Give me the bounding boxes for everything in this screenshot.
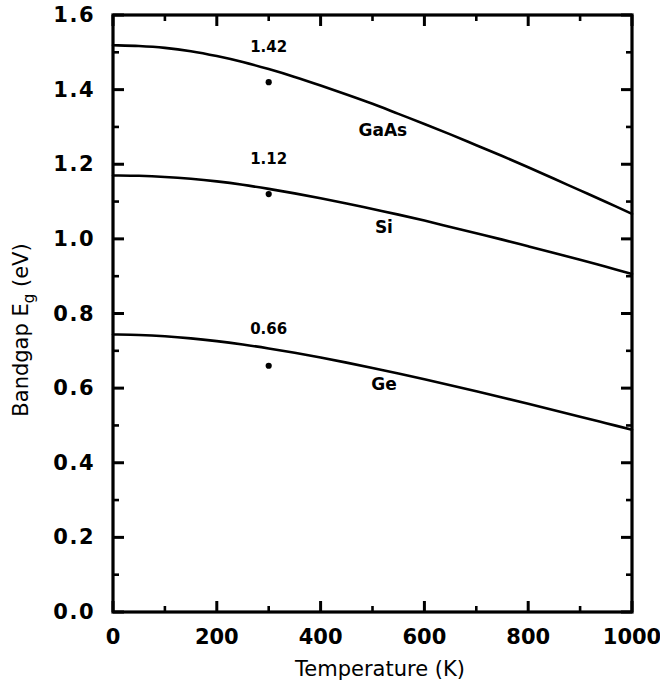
marker-gaas xyxy=(266,79,272,85)
x-tick-label: 200 xyxy=(195,625,239,649)
chart-background xyxy=(0,0,660,683)
curve-label-gaas: GaAs xyxy=(359,120,408,140)
marker-si xyxy=(266,191,272,197)
x-tick-label: 1000 xyxy=(603,625,660,649)
marker-ge xyxy=(266,363,272,369)
x-tick-label: 800 xyxy=(506,625,550,649)
x-axis-title: Temperature (K) xyxy=(294,657,465,681)
x-tick-label: 600 xyxy=(402,625,446,649)
bandgap-temperature-figure: 0.00.20.40.60.81.01.21.41.6 020040060080… xyxy=(0,0,660,683)
bandgap-chart-svg: 0.00.20.40.60.81.01.21.41.6 020040060080… xyxy=(0,0,660,683)
y-tick-label: 0.6 xyxy=(53,376,95,400)
y-tick-label: 1.2 xyxy=(53,152,95,176)
y-tick-label: 0.0 xyxy=(53,600,95,624)
y-tick-label: 1.4 xyxy=(53,78,95,102)
y-tick-label: 0.8 xyxy=(53,302,95,326)
x-tick-label: 0 xyxy=(106,625,121,649)
curve-label-ge: Ge xyxy=(371,374,396,394)
y-tick-label: 0.4 xyxy=(53,451,95,475)
point-label-ge: 0.66 xyxy=(250,320,287,338)
y-axis-title-unit: (eV) xyxy=(9,243,33,293)
point-label-gaas: 1.42 xyxy=(250,38,287,56)
curve-label-si: Si xyxy=(375,217,393,237)
point-label-si: 1.12 xyxy=(250,150,287,168)
y-tick-label: 1.0 xyxy=(53,227,95,251)
x-tick-label: 400 xyxy=(299,625,343,649)
y-axis-tick-labels: 0.00.20.40.60.81.01.21.41.6 xyxy=(53,3,95,624)
y-tick-label: 1.6 xyxy=(53,3,95,27)
y-axis-title-subscript: g xyxy=(20,294,38,304)
y-tick-label: 0.2 xyxy=(53,525,95,549)
y-axis-title-main: Bandgap E xyxy=(9,303,33,416)
